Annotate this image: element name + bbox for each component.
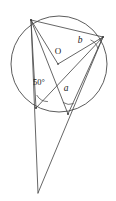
vertex-dot-A <box>30 19 32 21</box>
segment-A-D <box>31 20 68 114</box>
label-angle-b: b <box>78 35 83 45</box>
vertex-dot-C <box>35 107 37 109</box>
vertex-dot-D <box>67 113 69 115</box>
geometry-diagram-root: b O 50° a <box>0 0 116 201</box>
label-centre-O: O <box>55 46 62 56</box>
main-circle <box>11 16 107 112</box>
segment-A-O <box>31 20 58 64</box>
segment-A-B <box>31 20 103 37</box>
vertex-dot-O <box>57 63 59 65</box>
label-angle-a: a <box>64 83 69 93</box>
circle-geometry-figure: b O 50° a <box>0 0 116 201</box>
arc-angle-50 <box>37 95 48 102</box>
label-angle-50: 50° <box>33 77 45 87</box>
segment-B-P <box>38 37 103 193</box>
vertex-dot-B <box>102 36 104 38</box>
